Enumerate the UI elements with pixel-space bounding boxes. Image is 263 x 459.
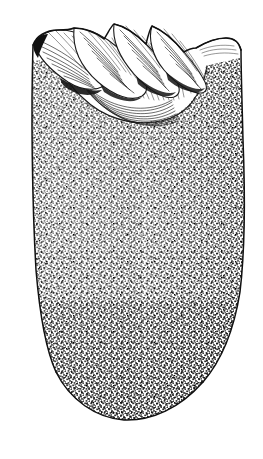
artifact-drawing — [0, 0, 263, 459]
illustration-figure: Stone tool drawing Pen-and-ink archaeolo… — [0, 0, 263, 459]
